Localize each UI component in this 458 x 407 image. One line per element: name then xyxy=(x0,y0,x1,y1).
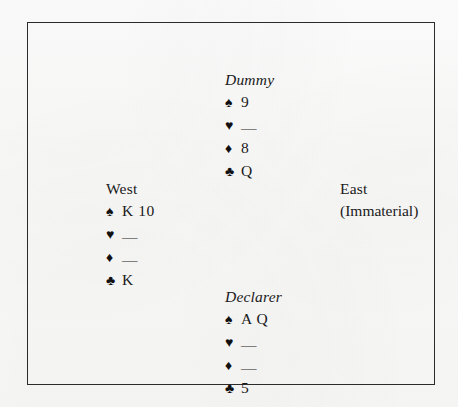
hand-east-label: East xyxy=(340,178,418,200)
club-icon: ♣ xyxy=(225,161,238,183)
hand-west-club-row: ♣K xyxy=(106,269,155,292)
hand-west-clubs: K xyxy=(122,269,134,291)
hand-dummy-label: Dummy xyxy=(225,69,274,91)
hand-dummy-diamond-row: ♦8 xyxy=(225,137,274,160)
hand-east-note: (Immaterial) xyxy=(340,200,418,222)
hand-dummy-club-row: ♣Q xyxy=(225,160,274,183)
spade-icon: ♠ xyxy=(106,201,119,223)
hand-west-hearts: — xyxy=(122,226,138,248)
hand-west-heart-row: ♥— xyxy=(106,223,155,246)
hand-west-spade-row: ♠K 10 xyxy=(106,200,155,223)
heart-icon: ♥ xyxy=(225,332,238,354)
hand-declarer-diamond-row: ♦— xyxy=(225,354,282,377)
hand-dummy-spade-row: ♠9 xyxy=(225,91,274,114)
hand-declarer: Declarer ♠A Q ♥— ♦— ♣5 xyxy=(225,286,282,400)
club-icon: ♣ xyxy=(225,378,238,400)
spade-icon: ♠ xyxy=(225,309,238,331)
hand-declarer-club-row: ♣5 xyxy=(225,377,282,400)
diamond-icon: ♦ xyxy=(225,355,238,377)
hand-declarer-diamonds: — xyxy=(241,357,257,379)
spade-icon: ♠ xyxy=(225,92,238,114)
hand-dummy-diamonds: 8 xyxy=(241,137,249,159)
hand-west: West ♠K 10 ♥— ♦— ♣K xyxy=(106,178,155,292)
hand-declarer-spade-row: ♠A Q xyxy=(225,308,282,331)
hand-west-spades: K 10 xyxy=(122,200,155,222)
hand-declarer-clubs: 5 xyxy=(241,377,249,399)
diamond-icon: ♦ xyxy=(225,138,238,160)
hand-dummy-heart-row: ♥— xyxy=(225,114,274,137)
hand-declarer-label: Declarer xyxy=(225,286,282,308)
hand-west-diamond-row: ♦— xyxy=(106,246,155,269)
diamond-icon: ♦ xyxy=(106,247,119,269)
hand-west-label: West xyxy=(106,178,155,200)
hand-dummy-hearts: — xyxy=(241,117,257,139)
heart-icon: ♥ xyxy=(106,224,119,246)
heart-icon: ♥ xyxy=(225,115,238,137)
hand-dummy-spades: 9 xyxy=(241,91,249,113)
hand-declarer-heart-row: ♥— xyxy=(225,331,282,354)
club-icon: ♣ xyxy=(106,270,119,292)
hand-dummy-clubs: Q xyxy=(241,160,253,182)
deal-diagram-frame: Dummy ♠9 ♥— ♦8 ♣Q West ♠K 10 ♥— ♦— ♣K xyxy=(27,22,435,385)
hand-west-diamonds: — xyxy=(122,249,138,271)
hand-dummy: Dummy ♠9 ♥— ♦8 ♣Q xyxy=(225,69,274,183)
hand-declarer-hearts: — xyxy=(241,334,257,356)
hand-east: East (Immaterial) xyxy=(340,178,418,222)
hand-declarer-spades: A Q xyxy=(241,308,268,330)
